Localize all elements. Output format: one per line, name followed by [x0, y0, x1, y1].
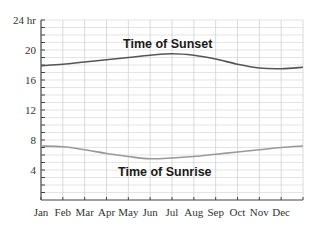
x-tick-label: Nov [250, 206, 269, 218]
y-tick-label: 20 [25, 44, 37, 56]
y-tick-label: 24 hr [13, 14, 36, 26]
x-tick-label: Jul [166, 206, 179, 218]
y-axis-ticks: 24 hr20161284 [13, 14, 36, 176]
y-tick-label: 16 [25, 74, 37, 86]
y-tick-label: 4 [31, 164, 37, 176]
x-tick-label: Sep [207, 206, 224, 218]
x-tick-label: Jun [143, 206, 159, 218]
sunset-label: Time of Sunset [123, 37, 213, 51]
x-tick-label: Jan [34, 206, 49, 218]
x-tick-label: Dec [272, 206, 290, 218]
x-tick-label: May [118, 206, 139, 218]
x-axis-labels: JanFebMarAprMayJunJulAugSepOctNovDec [34, 206, 290, 218]
x-tick-label: Feb [55, 206, 72, 218]
sunrise-label: Time of Sunrise [118, 165, 212, 179]
x-tick-label: Apr [98, 206, 115, 218]
y-tick-label: 8 [31, 134, 37, 146]
sunrise-sunset-chart: 24 hr20161284 JanFebMarAprMayJunJulAugSe… [0, 0, 320, 227]
x-tick-label: Mar [76, 206, 95, 218]
x-tick-label: Aug [184, 206, 203, 218]
x-tick-label: Oct [230, 206, 246, 218]
y-tick-label: 12 [25, 104, 36, 116]
